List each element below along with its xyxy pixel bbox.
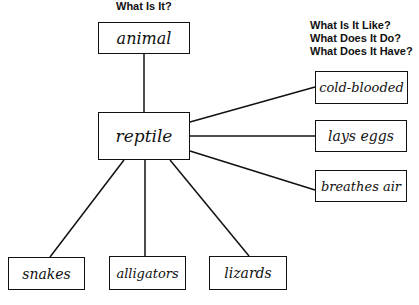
question-what-is-it: What Is It?	[116, 0, 172, 13]
node-label: breathes air	[321, 179, 401, 194]
question-what-does-it-do: What Does It Do?	[310, 32, 401, 45]
node-alligators: alligators	[109, 256, 186, 290]
node-lays-eggs: lays eggs	[315, 120, 407, 152]
edge-reptile-cold-blooded	[190, 87, 315, 122]
node-label: snakes	[22, 266, 71, 282]
node-snakes: snakes	[8, 257, 85, 290]
edge-reptile-lizards	[170, 160, 249, 256]
node-lizards: lizards	[209, 256, 287, 290]
node-label: lays eggs	[328, 128, 394, 144]
node-animal: animal	[98, 22, 190, 54]
node-label: lizards	[224, 265, 272, 281]
node-breathes-air: breathes air	[315, 170, 407, 202]
edge-reptile-breathes-air	[190, 151, 315, 190]
question-what-is-it-like: What Is It Like?	[310, 19, 391, 32]
node-reptile: reptile	[98, 112, 190, 160]
node-label: animal	[117, 29, 172, 48]
node-label: alligators	[116, 266, 178, 281]
node-label: cold-blooded	[319, 80, 403, 95]
edge-reptile-snakes	[50, 160, 124, 257]
node-label: reptile	[116, 126, 173, 146]
node-cold-blooded: cold-blooded	[315, 71, 408, 104]
question-what-does-it-have: What Does It Have?	[310, 45, 413, 58]
